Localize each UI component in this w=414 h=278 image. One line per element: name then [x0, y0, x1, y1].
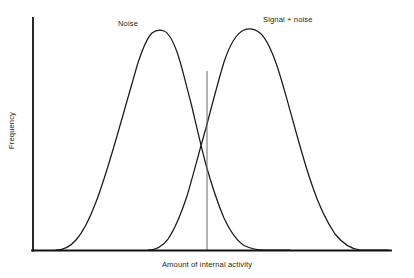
x-axis-label: Amount of internal activity	[0, 261, 414, 269]
y-axis-label: Frequency	[8, 112, 16, 149]
signal-noise-distribution-curve	[148, 29, 388, 250]
noise-distribution-curve	[56, 30, 290, 250]
signal-noise-curve-label: Signal + noise	[263, 16, 313, 24]
signal-detection-figure: Noise Signal + noise Amount of internal …	[0, 0, 414, 278]
noise-curve-label: Noise	[118, 20, 138, 28]
plot-canvas	[0, 0, 414, 278]
